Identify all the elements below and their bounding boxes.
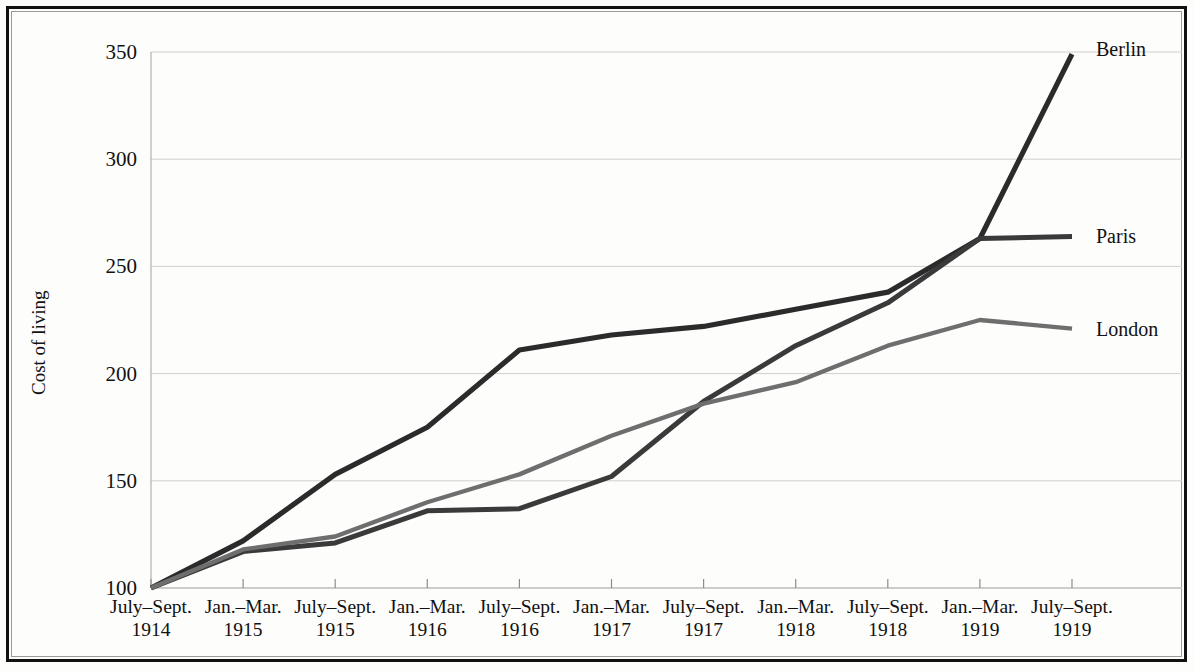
x-tick-label-period: Jan.–Mar. (205, 596, 282, 617)
x-tick-label-group: July–Sept.1914Jan.–Mar.1915July–Sept.191… (110, 596, 1113, 640)
y-tick-label: 250 (106, 254, 138, 278)
x-tick-label-year: 1917 (592, 619, 631, 640)
series-line-berlin (151, 54, 1072, 588)
x-tick-label-year: 1918 (868, 619, 907, 640)
series-label-london: London (1096, 318, 1158, 340)
data-series-group (151, 54, 1072, 588)
series-label-group: BerlinParisLondon (1096, 38, 1158, 339)
chart-plot-area: 100150200250300350 July–Sept.1914Jan.–Ma… (0, 0, 1195, 672)
x-tick-label-year: 1919 (1053, 619, 1092, 640)
x-tick-label-year: 1916 (408, 619, 447, 640)
series-label-berlin: Berlin (1096, 38, 1146, 60)
x-tick-label-year: 1916 (500, 619, 539, 640)
y-axis-title: Cost of living (28, 290, 49, 395)
x-tick-label-period: Jan.–Mar. (389, 596, 466, 617)
y-tick-label: 350 (106, 40, 138, 64)
x-tick-label-year: 1915 (316, 619, 355, 640)
gridline-group (151, 52, 1182, 588)
x-tick-label-year: 1919 (960, 619, 999, 640)
y-tick-label: 300 (106, 147, 138, 171)
x-tick-label-year: 1914 (132, 619, 171, 640)
x-tick-label-year: 1915 (224, 619, 263, 640)
y-tick-label-group: 100150200250300350 (106, 40, 138, 600)
x-tick-label-year: 1918 (776, 619, 815, 640)
x-tick-label-period: July–Sept. (478, 596, 560, 617)
series-line-paris (151, 236, 1072, 588)
x-tick-label-period: Jan.–Mar. (573, 596, 650, 617)
x-tick-label-period: July–Sept. (663, 596, 745, 617)
x-tick-label-period: July–Sept. (847, 596, 929, 617)
y-axis-line-group (151, 52, 1182, 588)
series-label-paris: Paris (1096, 225, 1136, 247)
x-tick-group (151, 579, 1072, 588)
figure-container: 100150200250300350 July–Sept.1914Jan.–Ma… (0, 0, 1195, 672)
y-tick-label: 150 (106, 469, 138, 493)
x-tick-label-period: Jan.–Mar. (757, 596, 834, 617)
x-tick-label-period: July–Sept. (294, 596, 376, 617)
x-tick-label-period: Jan.–Mar. (941, 596, 1018, 617)
line-chart-svg: 100150200250300350 July–Sept.1914Jan.–Ma… (0, 0, 1195, 672)
x-tick-label-period: July–Sept. (1031, 596, 1113, 617)
x-tick-label-year: 1917 (684, 619, 723, 640)
x-tick-label-period: July–Sept. (110, 596, 192, 617)
y-tick-label: 200 (106, 362, 138, 386)
